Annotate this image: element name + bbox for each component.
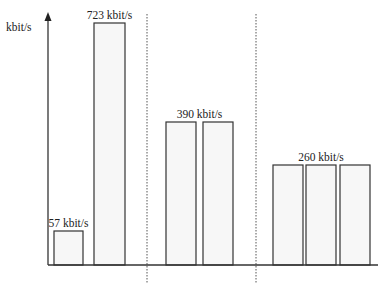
bar-57 — [54, 231, 83, 265]
bar-label-723: 723 kbit/s — [87, 9, 133, 21]
bar-390-a — [166, 122, 196, 265]
bar-260-b — [306, 165, 336, 265]
bandwidth-chart: kbit/s 57 kbit/s 723 kbit/s 390 kbit/s 2… — [0, 0, 387, 295]
bar-label-390: 390 kbit/s — [177, 108, 223, 120]
bar-390-b — [203, 122, 233, 265]
bar-260-c — [340, 165, 370, 265]
bar-260-a — [273, 165, 303, 265]
bar-label-57: 57 kbit/s — [49, 217, 89, 229]
y-axis-arrow-icon — [45, 12, 52, 21]
y-axis-label: kbit/s — [6, 21, 32, 33]
bar-label-260: 260 kbit/s — [298, 151, 344, 163]
bar-723 — [94, 23, 125, 265]
